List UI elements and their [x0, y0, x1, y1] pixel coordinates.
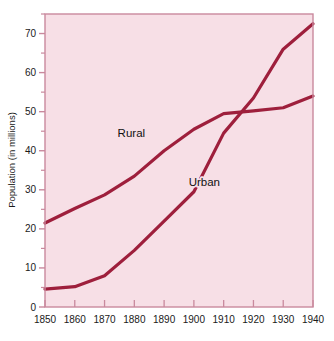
y-tick-label: 0	[30, 302, 36, 313]
x-tick-label: 1890	[153, 314, 176, 325]
chart-canvas: 010203040506070 185018601870188018901900…	[0, 0, 334, 341]
y-tick-label: 70	[25, 28, 37, 39]
y-axis-title: Population (in millions)	[6, 112, 17, 208]
population-line-chart: 010203040506070 185018601870188018901900…	[0, 0, 334, 341]
y-tick-label: 20	[25, 223, 37, 234]
x-tick-label: 1910	[213, 314, 236, 325]
y-tick-label: 30	[25, 184, 37, 195]
y-tick-label: 10	[25, 262, 37, 273]
x-tick-label: 1880	[123, 314, 146, 325]
series-label-rural: Rural	[118, 127, 145, 139]
x-tick-label: 1860	[64, 314, 87, 325]
y-tick-label: 40	[25, 145, 37, 156]
x-tick-label: 1900	[183, 314, 206, 325]
x-tick-label: 1920	[242, 314, 265, 325]
x-tick-label: 1940	[302, 314, 325, 325]
y-tick-label: 50	[25, 106, 37, 117]
x-tick-label: 1870	[93, 314, 116, 325]
plot-area-background	[45, 14, 313, 307]
series-label-urban: Urban	[189, 176, 220, 188]
x-tick-label: 1930	[272, 314, 295, 325]
x-tick-label: 1850	[34, 314, 57, 325]
y-tick-label: 60	[25, 67, 37, 78]
